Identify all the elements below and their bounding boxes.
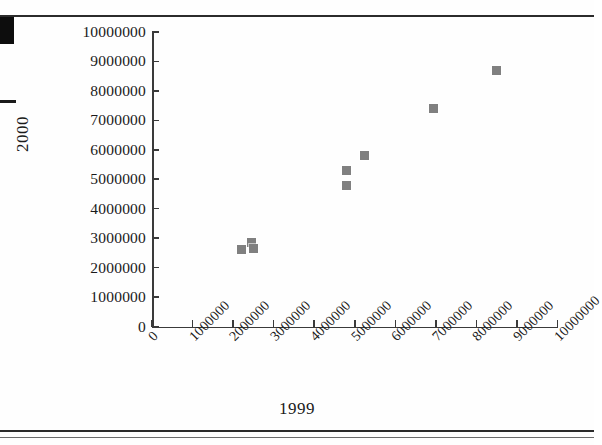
data-point (492, 66, 501, 75)
y-tick (152, 120, 159, 122)
x-tick-label: 6000000 (389, 298, 435, 344)
x-tick-label: 0 (146, 329, 161, 344)
y-tick (152, 178, 159, 180)
y-tick-label: 1000000 (46, 289, 146, 305)
x-tick-label: 8000000 (470, 298, 516, 344)
y-tick-label: 9000000 (46, 53, 146, 69)
x-tick-label: 4000000 (308, 298, 354, 344)
y-tick (152, 90, 159, 92)
y-tick (152, 61, 159, 63)
x-tick-label: 5000000 (349, 298, 395, 344)
x-axis-title: 1999 (0, 400, 594, 417)
y-tick-label: 10000000 (46, 24, 146, 40)
x-tick-label: 3000000 (268, 298, 314, 344)
x-tick-label: 7000000 (430, 298, 476, 344)
x-tick (151, 320, 153, 327)
y-tick-label: 4000000 (46, 201, 146, 217)
y-tick (152, 31, 159, 33)
y-tick (152, 237, 159, 239)
data-point (342, 181, 351, 190)
y-tick-label: 5000000 (46, 171, 146, 187)
y-tick-label: 3000000 (46, 230, 146, 246)
data-point (429, 104, 438, 113)
page-rule-bottom-secondary (0, 437, 594, 438)
y-tick-label: 0 (46, 319, 146, 335)
y-tick (152, 208, 159, 210)
x-tick-label: 1000000 (187, 298, 233, 344)
data-point (360, 151, 369, 160)
x-tick-label: 10000000 (552, 293, 602, 344)
y-tick (152, 296, 159, 298)
y-tick-label: 8000000 (46, 83, 146, 99)
y-tick-label: 6000000 (46, 142, 146, 158)
y-axis-title: 2000 (14, 116, 31, 152)
data-point (249, 244, 258, 253)
y-tick (152, 326, 159, 328)
y-tick-label: 2000000 (46, 260, 146, 276)
x-tick-label: 9000000 (511, 298, 557, 344)
y-tick (152, 149, 159, 151)
y-tick-label: 7000000 (46, 112, 146, 128)
data-point (237, 245, 246, 254)
y-tick (152, 267, 159, 269)
data-point (342, 166, 351, 175)
x-tick-label: 2000000 (227, 298, 273, 344)
page-rule-bottom (0, 430, 594, 432)
